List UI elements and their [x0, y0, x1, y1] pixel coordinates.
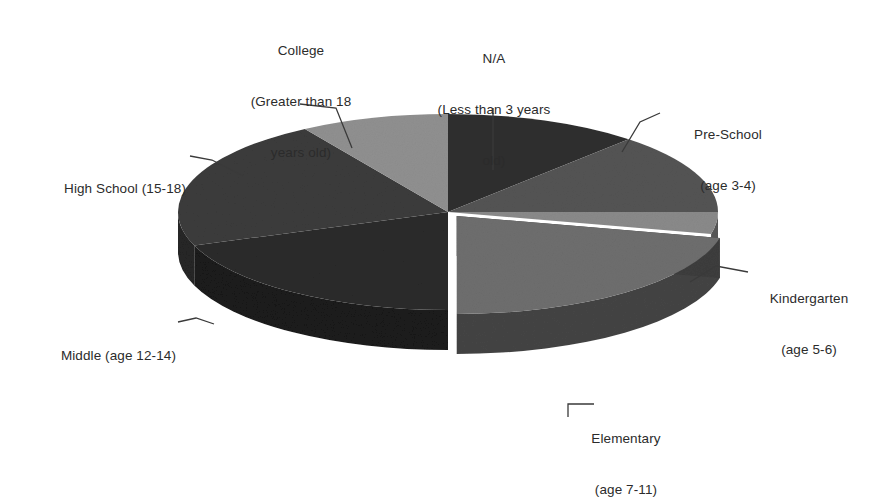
label-kindergarten-line2: (age 5-6)	[744, 341, 874, 358]
label-kindergarten: Kindergarten (age 5-6)	[744, 256, 874, 392]
label-middle: Middle (age 12-14)	[8, 313, 176, 398]
label-elementary-line2: (age 7-11)	[560, 481, 692, 498]
label-na-line3: old)	[418, 152, 570, 169]
label-preschool-line2: (age 3-4)	[664, 177, 792, 194]
label-college-line1: College	[208, 42, 394, 59]
label-college-line3: years old)	[208, 144, 394, 161]
label-na-line1: N/A	[418, 50, 570, 67]
leader-line-middle	[178, 318, 214, 324]
label-preschool-line1: Pre-School	[664, 126, 792, 143]
label-preschool: Pre-School (age 3-4)	[664, 92, 792, 228]
label-elementary: Elementary (age 7-11)	[560, 396, 692, 501]
label-na: N/A (Less than 3 years old)	[418, 16, 570, 203]
label-highschool: High School (15-18)	[10, 146, 186, 231]
label-middle-line1: Middle (age 12-14)	[8, 347, 176, 364]
label-na-line2: (Less than 3 years	[418, 101, 570, 118]
label-highschool-line1: High School (15-18)	[10, 180, 186, 197]
label-college: College (Greater than 18 years old)	[208, 8, 394, 195]
label-college-line2: (Greater than 18	[208, 93, 394, 110]
label-kindergarten-line1: Kindergarten	[744, 290, 874, 307]
label-elementary-line1: Elementary	[560, 430, 692, 447]
